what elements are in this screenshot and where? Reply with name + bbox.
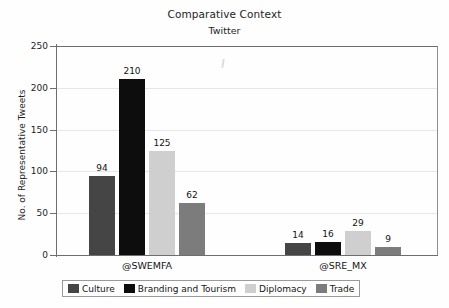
bar bbox=[375, 247, 401, 255]
legend-label: Branding and Tourism bbox=[138, 284, 236, 294]
legend: CultureBranding and TourismDiplomacyTrad… bbox=[62, 280, 360, 297]
y-tick-label: 50 bbox=[2, 208, 48, 218]
bar bbox=[315, 242, 341, 255]
bar bbox=[149, 151, 175, 256]
y-tick-label: 100 bbox=[2, 166, 48, 176]
bars-layer bbox=[57, 46, 437, 255]
chart-subtitle: Twitter bbox=[0, 25, 449, 36]
bar-value-label: 16 bbox=[309, 229, 347, 239]
y-tick-label: 200 bbox=[2, 83, 48, 93]
bar bbox=[119, 79, 145, 255]
bar-value-label: 29 bbox=[339, 218, 377, 228]
legend-swatch bbox=[245, 284, 256, 293]
legend-item[interactable]: Diplomacy bbox=[245, 284, 307, 294]
bar bbox=[285, 243, 311, 255]
x-axis-group-label: @SWEMFA bbox=[69, 260, 225, 271]
bar-value-label: 125 bbox=[143, 138, 181, 148]
x-axis-group-label: @SRE_MX bbox=[265, 260, 421, 271]
legend-item[interactable]: Branding and Tourism bbox=[124, 284, 236, 294]
legend-item[interactable]: Culture bbox=[68, 284, 115, 294]
legend-label: Diplomacy bbox=[259, 284, 307, 294]
legend-label: Trade bbox=[330, 284, 355, 294]
legend-swatch bbox=[124, 284, 135, 293]
y-tick-label: 0 bbox=[2, 250, 48, 260]
legend-swatch bbox=[316, 284, 327, 293]
legend-item[interactable]: Trade bbox=[316, 284, 355, 294]
legend-swatch bbox=[68, 284, 79, 293]
y-axis-tick-labels: 050100150200250 bbox=[0, 0, 48, 308]
bar-chart-figure: Comparative Context Twitter No. of Repre… bbox=[0, 0, 449, 308]
bar bbox=[89, 176, 115, 255]
bar-value-label: 210 bbox=[113, 66, 151, 76]
bar-value-label: 9 bbox=[369, 234, 407, 244]
legend-label: Culture bbox=[82, 284, 115, 294]
y-tick-label: 150 bbox=[2, 125, 48, 135]
bar bbox=[345, 231, 371, 255]
bar-value-label: 94 bbox=[83, 163, 121, 173]
bar bbox=[179, 203, 205, 255]
y-tick-label: 250 bbox=[2, 41, 48, 51]
bar-value-label: 62 bbox=[173, 190, 211, 200]
chart-title: Comparative Context bbox=[0, 8, 449, 20]
x-axis-line bbox=[56, 255, 438, 256]
